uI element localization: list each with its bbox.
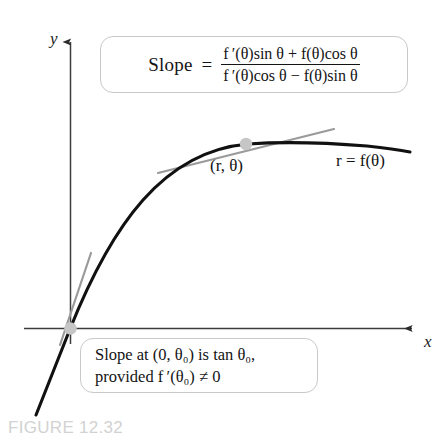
slope-word: Slope	[148, 54, 192, 76]
curve-point-marker	[240, 138, 252, 150]
origin-note-line-2: provided f ′(θ₀) ≠ 0	[95, 366, 317, 388]
figure-container: y x (r, θ) r = f(θ) Slope = f ′(θ)sin θ …	[0, 0, 447, 448]
equals-sign: =	[202, 54, 213, 76]
origin-note-line-1: Slope at (0, θ₀) is tan θ₀,	[95, 344, 317, 366]
curve-equation-label: r = f(θ)	[336, 152, 385, 169]
curve-point-label: (r, θ)	[210, 157, 243, 174]
fraction-denominator: f ′(θ)cos θ − f(θ)sin θ	[221, 67, 359, 84]
origin-slope-note-content: Slope at (0, θ₀) is tan θ₀, provided f ′…	[81, 339, 317, 392]
slope-formula-callout: Slope = f ′(θ)sin θ + f(θ)cos θ f ′(θ)co…	[100, 36, 408, 93]
fraction-bar	[221, 64, 359, 65]
x-axis-label: x	[424, 333, 432, 350]
figure-caption: FIGURE 12.32	[8, 418, 123, 438]
origin-slope-note-callout: Slope at (0, θ₀) is tan θ₀, provided f ′…	[80, 338, 318, 393]
fraction-numerator: f ′(θ)sin θ + f(θ)cos θ	[221, 45, 359, 62]
y-axis-label: y	[50, 30, 58, 47]
slope-formula-content: Slope = f ′(θ)sin θ + f(θ)cos θ f ′(θ)co…	[101, 37, 407, 92]
slope-fraction: f ′(θ)sin θ + f(θ)cos θ f ′(θ)cos θ − f(…	[221, 45, 359, 85]
origin-point-marker	[64, 322, 76, 334]
